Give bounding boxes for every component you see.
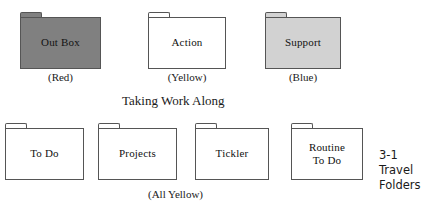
group-color-caption: (All Yellow): [148, 188, 203, 201]
folder-body: Routine To Do: [291, 128, 363, 180]
folder-projects[interactable]: Projects: [98, 123, 177, 180]
folder-color-caption-support: (Blue): [265, 71, 341, 84]
folder-body: Tickler: [195, 128, 269, 180]
folder-support[interactable]: Support: [265, 12, 341, 69]
folder-label: Projects: [119, 147, 156, 161]
folder-routine-to-do[interactable]: Routine To Do: [291, 123, 363, 180]
section-title: Taking Work Along: [122, 93, 225, 108]
folder-color-caption-action: (Yellow): [148, 71, 226, 84]
folder-label: Action: [171, 36, 202, 50]
folder-action[interactable]: Action: [148, 12, 226, 69]
folder-body: Projects: [98, 128, 177, 180]
folder-out-box[interactable]: Out Box: [20, 12, 101, 69]
folder-label: To Do: [30, 147, 59, 161]
folder-body: Out Box: [20, 17, 101, 69]
figure-canvas: Out Box (Red) Action (Yellow) Support (B…: [0, 0, 436, 210]
folder-to-do[interactable]: To Do: [5, 123, 84, 180]
folder-tickler[interactable]: Tickler: [195, 123, 269, 180]
folder-label: Tickler: [216, 147, 249, 161]
folder-body: Support: [265, 17, 341, 69]
folder-color-caption-out-box: (Red): [20, 71, 101, 84]
folder-label: Out Box: [41, 36, 80, 50]
figure-caption: 3-1 Travel Folders: [379, 148, 421, 193]
folder-body: Action: [148, 17, 226, 69]
folder-label: Routine To Do: [309, 141, 345, 167]
folder-label: Support: [285, 36, 321, 50]
folder-body: To Do: [5, 128, 84, 180]
